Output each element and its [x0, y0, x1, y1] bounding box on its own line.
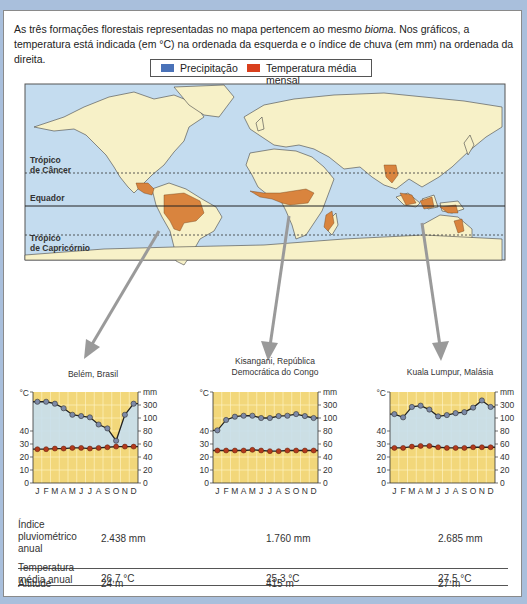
svg-text:J: J [259, 486, 263, 496]
table-cell: 415 m [266, 578, 294, 589]
svg-text:A: A [96, 486, 102, 496]
svg-text:O: O [470, 486, 477, 496]
svg-text:300: 300 [143, 400, 157, 410]
svg-text:°C: °C [376, 388, 386, 398]
svg-text:M: M [408, 486, 415, 496]
svg-text:40: 40 [500, 452, 510, 462]
svg-text:N: N [122, 486, 128, 496]
pointer-arrows [4, 11, 523, 371]
svg-text:S: S [462, 486, 468, 496]
svg-text:°C: °C [199, 388, 209, 398]
svg-text:J: J [88, 486, 92, 496]
svg-text:0: 0 [24, 478, 29, 488]
svg-text:10: 10 [200, 465, 210, 475]
table-cell: 1.760 mm [266, 533, 310, 544]
chart-kuala: 010203040°C020406080100300mmJFMAMJJASOND… [361, 371, 527, 501]
svg-text:20: 20 [323, 465, 333, 475]
svg-text:100: 100 [143, 413, 157, 423]
svg-text:20: 20 [200, 452, 210, 462]
svg-text:°C: °C [19, 388, 29, 398]
svg-text:D: D [311, 486, 317, 496]
table-divider [18, 568, 508, 569]
svg-text:mês: mês [435, 499, 449, 501]
svg-text:F: F [224, 486, 229, 496]
svg-text:F: F [44, 486, 49, 496]
svg-text:J: J [215, 486, 219, 496]
table-cell: 2.438 mm [101, 533, 145, 544]
svg-text:300: 300 [500, 400, 514, 410]
svg-text:20: 20 [377, 452, 387, 462]
svg-text:40: 40 [377, 426, 387, 436]
svg-text:20: 20 [20, 452, 30, 462]
svg-text:M: M [51, 486, 58, 496]
svg-text:80: 80 [143, 426, 153, 436]
svg-text:mês: mês [78, 499, 92, 501]
svg-text:J: J [79, 486, 83, 496]
svg-text:S: S [285, 486, 291, 496]
arrow-kisangani [270, 216, 289, 346]
svg-text:A: A [418, 486, 424, 496]
content-panel: As três formações florestais representad… [3, 10, 522, 597]
svg-text:10: 10 [377, 465, 387, 475]
svg-text:100: 100 [323, 413, 337, 423]
row-header: Índicepluviométricoanual [18, 519, 77, 555]
arrow-kuala [422, 223, 440, 346]
svg-text:A: A [61, 486, 67, 496]
svg-text:mm: mm [500, 387, 514, 397]
svg-text:J: J [35, 486, 39, 496]
svg-text:mês: mês [258, 499, 272, 501]
svg-text:20: 20 [143, 465, 153, 475]
svg-text:F: F [401, 486, 406, 496]
svg-text:40: 40 [323, 452, 333, 462]
svg-text:60: 60 [143, 439, 153, 449]
svg-text:J: J [445, 486, 449, 496]
svg-text:M: M [426, 486, 433, 496]
svg-text:0: 0 [381, 478, 386, 488]
svg-text:10: 10 [20, 465, 30, 475]
arrow-head-kuala-icon [432, 341, 449, 361]
svg-text:30: 30 [377, 439, 387, 449]
svg-text:N: N [302, 486, 308, 496]
svg-text:M: M [231, 486, 238, 496]
svg-text:0: 0 [323, 478, 328, 488]
svg-text:O: O [113, 486, 120, 496]
svg-text:60: 60 [500, 439, 510, 449]
svg-text:0: 0 [204, 478, 209, 488]
svg-text:M: M [69, 486, 76, 496]
svg-text:0: 0 [143, 478, 148, 488]
svg-text:100: 100 [500, 413, 514, 423]
svg-text:60: 60 [323, 439, 333, 449]
table-divider [18, 585, 508, 586]
svg-text:M: M [249, 486, 256, 496]
svg-text:300: 300 [323, 400, 337, 410]
chart-belem: 010203040°C020406080100300mmJFMAMJJASOND… [4, 371, 174, 501]
svg-text:J: J [392, 486, 396, 496]
svg-text:A: A [276, 486, 282, 496]
svg-text:N: N [479, 486, 485, 496]
svg-text:A: A [453, 486, 459, 496]
svg-text:D: D [488, 486, 494, 496]
svg-text:mm: mm [323, 387, 337, 397]
svg-text:S: S [105, 486, 111, 496]
chart-kisangani: 010203040°C020406080100300mmJFMAMJJASOND… [184, 371, 354, 501]
svg-text:80: 80 [500, 426, 510, 436]
svg-text:30: 30 [20, 439, 30, 449]
svg-text:40: 40 [20, 426, 30, 436]
table-cell: 24 m [101, 578, 123, 589]
table-cell: 27 m [438, 578, 460, 589]
svg-text:D: D [131, 486, 137, 496]
svg-text:J: J [268, 486, 272, 496]
arrow-belem [91, 231, 159, 346]
svg-text:0: 0 [500, 478, 505, 488]
svg-text:20: 20 [500, 465, 510, 475]
svg-text:O: O [293, 486, 300, 496]
kisangani-title-line1: Kisangani, República [210, 356, 340, 367]
svg-text:40: 40 [143, 452, 153, 462]
table-cell: 2.685 mm [438, 533, 482, 544]
row-header: Altitude [18, 578, 51, 590]
svg-text:30: 30 [200, 439, 210, 449]
svg-text:40: 40 [200, 426, 210, 436]
svg-text:J: J [436, 486, 440, 496]
svg-text:mm: mm [143, 387, 157, 397]
svg-text:80: 80 [323, 426, 333, 436]
